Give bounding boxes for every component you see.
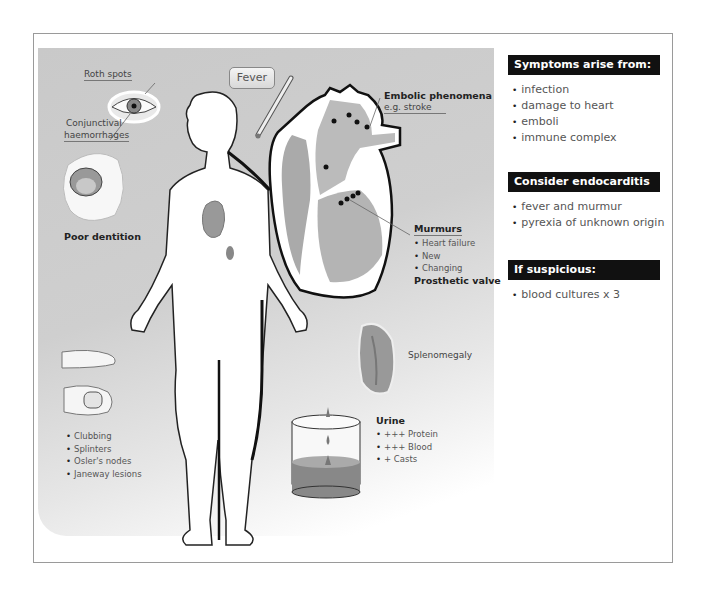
hand-signs-list: Clubbing Splinters Osler's nodes Janeway… (66, 430, 142, 480)
urine-beaker-icon (292, 407, 360, 498)
consider-heading: Consider endocarditis if: (508, 172, 660, 192)
murmurs-list: Heart failure New Changing (414, 237, 475, 275)
hand-sign-item: Splinters (66, 443, 142, 456)
urine-item: +++ Protein (376, 428, 438, 441)
suspicious-heading: If suspicious: (508, 260, 660, 280)
prosthetic-valve-label: Prosthetic valve (414, 275, 501, 286)
symptoms-heading: Symptoms arise from: (508, 55, 660, 75)
spleen-icon (359, 324, 394, 394)
urine-item: + Casts (376, 453, 438, 466)
splenomegaly-label: Splenomegaly (408, 350, 472, 360)
murmur-item: Changing (414, 262, 475, 275)
nail-icon (64, 386, 112, 415)
suspicious-list: blood cultures x 3 (512, 287, 620, 303)
urine-label: Urine (376, 415, 405, 426)
roth-pointer (145, 83, 155, 94)
conjunctival-label: Conjunctival (66, 118, 122, 128)
mouth-icon (63, 154, 123, 221)
fever-label: Fever (229, 67, 275, 89)
symptom-item: emboli (512, 114, 617, 130)
consider-item: fever and murmur (512, 199, 664, 215)
symptom-item: infection (512, 82, 617, 98)
murmurs-label: Murmurs (414, 223, 462, 236)
murmur-item: Heart failure (414, 237, 475, 250)
roth-spots-label: Roth spots (84, 69, 132, 81)
clubbing-finger-icon (62, 350, 115, 368)
symptoms-list: infection damage to heart emboli immune … (512, 82, 617, 146)
suspicious-item: blood cultures x 3 (512, 287, 620, 303)
hand-sign-item: Janeway lesions (66, 468, 142, 481)
embolic-example-label: e.g. stroke (384, 102, 446, 114)
murmur-item: New (414, 250, 475, 263)
urine-list: +++ Protein +++ Blood + Casts (376, 428, 438, 466)
poor-dentition-label: Poor dentition (64, 231, 141, 242)
heart-cross-section (270, 85, 410, 298)
symptom-item: immune complex (512, 130, 617, 146)
urine-item: +++ Blood (376, 441, 438, 454)
haemorrhages-label: haemorrhages (64, 130, 129, 142)
consider-item: pyrexia of unknown origin (512, 215, 664, 231)
embolic-phenomena-label: Embolic phenomena (384, 90, 492, 101)
hand-sign-item: Clubbing (66, 430, 142, 443)
consider-list: fever and murmur pyrexia of unknown orig… (512, 199, 664, 231)
symptom-item: damage to heart (512, 98, 617, 114)
hand-sign-item: Osler's nodes (66, 455, 142, 468)
